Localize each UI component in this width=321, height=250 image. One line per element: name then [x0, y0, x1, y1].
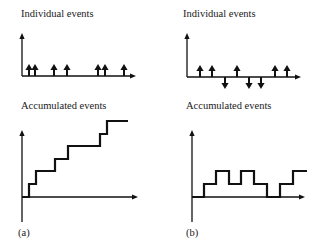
panel-a-top-x-axis-arrow-icon	[130, 73, 136, 78]
event-arrow-down-icon	[221, 83, 228, 89]
event-arrow-up-icon	[283, 65, 290, 71]
panel-a-bottom-y-axis-arrow-icon	[19, 130, 24, 136]
event-arrow-up-icon	[31, 64, 38, 70]
event-arrow-up-icon	[208, 65, 215, 71]
event-arrow-up-icon	[63, 64, 70, 70]
event-arrow-up-icon	[120, 64, 127, 70]
event-arrow-up-icon	[25, 64, 32, 70]
event-arrow-down-icon	[257, 83, 264, 89]
panel-a-top-y-axis-arrow-icon	[19, 33, 24, 39]
event-arrow-up-icon	[50, 64, 57, 70]
event-accumulation-diagram	[0, 0, 321, 250]
panel-a-bottom-x-axis-arrow-icon	[132, 194, 138, 199]
event-arrow-up-icon	[233, 65, 240, 71]
panel-b-top-y-axis-arrow-icon	[184, 33, 189, 39]
event-arrow-up-icon	[196, 65, 203, 71]
panel-b-accumulated-step-curve	[192, 171, 307, 197]
event-arrow-up-icon	[101, 64, 108, 70]
panel-b-top-x-axis-arrow-icon	[295, 74, 301, 79]
event-arrow-up-icon	[271, 65, 278, 71]
panel-b-bottom-y-axis-arrow-icon	[189, 130, 194, 136]
panel-b-bottom-x-axis-arrow-icon	[299, 194, 305, 199]
event-arrow-down-icon	[245, 83, 252, 89]
event-arrow-up-icon	[94, 64, 101, 70]
panel-a-accumulated-step-curve	[22, 121, 128, 197]
